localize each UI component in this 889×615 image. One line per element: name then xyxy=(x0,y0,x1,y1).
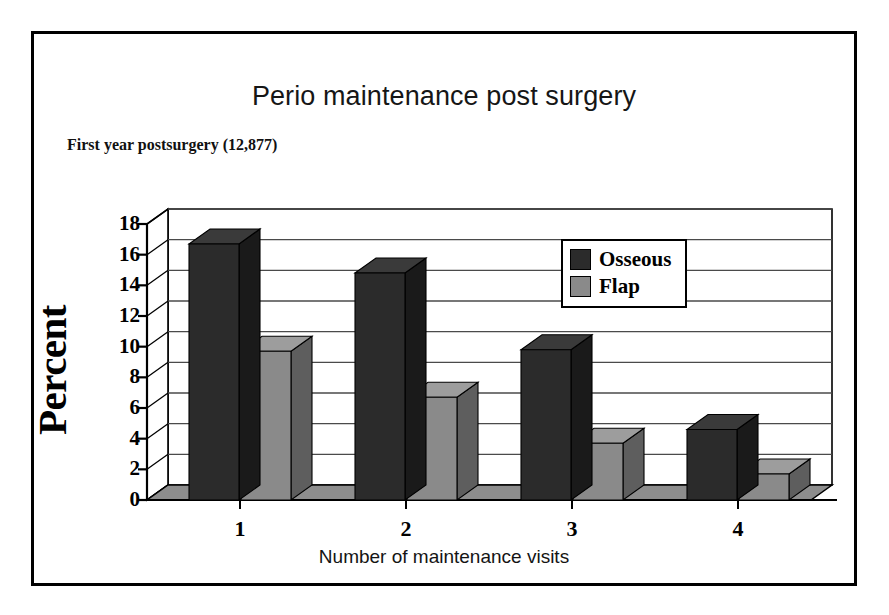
x-tick-label-3: 3 xyxy=(532,516,612,542)
x-tick-label-2: 2 xyxy=(366,516,446,542)
chart-frame: Perio maintenance post surgery First yea… xyxy=(31,31,857,586)
legend-label: Osseous xyxy=(599,249,671,270)
x-tick-label-1: 1 xyxy=(200,516,280,542)
x-axis-tick-labels: 1234 xyxy=(34,34,854,583)
legend-item-flap[interactable]: Flap xyxy=(570,273,671,300)
chart-legend: OsseousFlap xyxy=(561,239,687,308)
legend-swatch-icon-osseous xyxy=(570,249,591,270)
legend-swatch-icon-flap xyxy=(570,276,591,297)
x-tick-label-4: 4 xyxy=(698,516,778,542)
chart-page: Perio maintenance post surgery First yea… xyxy=(0,0,889,615)
x-axis-label: Number of maintenance visits xyxy=(34,546,854,568)
legend-label: Flap xyxy=(599,276,640,297)
legend-item-osseous[interactable]: Osseous xyxy=(570,246,671,273)
